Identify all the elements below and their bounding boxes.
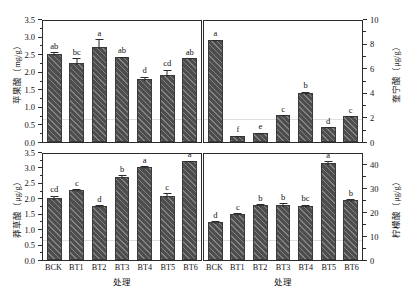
y-axis-tick (363, 93, 367, 94)
bar[interactable] (276, 205, 291, 260)
y-axis-tick-label: 20 (370, 209, 379, 218)
bar[interactable] (253, 205, 268, 260)
bar[interactable] (160, 75, 175, 142)
bar-item: a (204, 21, 227, 142)
error-bar (328, 161, 329, 165)
x-axis-tick-label: BT6 (340, 263, 363, 272)
y-axis-tick (363, 260, 367, 261)
y-axis-tick-label: 0.5 (24, 121, 35, 130)
bar[interactable] (208, 222, 223, 260)
plot-area-quinic-acid: afecbdc (203, 20, 363, 143)
significance-letter: cd (163, 59, 171, 68)
bar[interactable] (208, 40, 223, 142)
y-axis-minor-tick (363, 176, 366, 177)
bar[interactable] (137, 167, 152, 260)
significance-letter: c (349, 106, 353, 115)
bar[interactable] (230, 214, 245, 260)
significance-letter: b (281, 193, 285, 202)
bar[interactable] (276, 115, 291, 142)
error-bar (283, 115, 284, 117)
y-axis-tick (38, 152, 42, 153)
y-axis-tick-label: 2.0 (24, 68, 35, 77)
x-axis-tick-label: BCK (203, 263, 226, 272)
bar-item: ab (178, 21, 201, 142)
bar[interactable] (47, 54, 62, 142)
y-axis-tick-label: 1.5 (24, 210, 35, 219)
bar[interactable] (137, 79, 152, 142)
y-axis-minor-tick (40, 45, 43, 46)
bar[interactable] (47, 198, 62, 260)
error-bar (305, 92, 306, 95)
error-bar (99, 39, 100, 49)
y-axis-tick (38, 245, 42, 246)
significance-letter: b (349, 189, 353, 198)
y-axis-tick (38, 19, 42, 20)
y-axis-tick (363, 212, 367, 213)
bar[interactable] (160, 196, 175, 260)
y-axis-minor-tick (40, 116, 43, 117)
error-bar (144, 166, 145, 169)
significance-letter: b (258, 194, 262, 203)
x-axis-tick-label: BCK (42, 263, 65, 272)
x-axis-title-left: 处理 (42, 278, 202, 287)
bar-item: b (111, 154, 134, 260)
y-axis-tick (38, 124, 42, 125)
y-axis-tick (38, 89, 42, 90)
y-axis-minor-tick (363, 56, 366, 57)
y-axis-tick (38, 54, 42, 55)
error-bar (54, 52, 55, 56)
y-axis-minor-tick (40, 28, 43, 29)
y-axis-tick-label: 10 (370, 233, 379, 242)
significance-letter: a (188, 153, 192, 159)
y-axis-tick-label: 3.5 (24, 16, 35, 25)
bar[interactable] (298, 206, 313, 260)
error-bar (260, 204, 261, 207)
bar-item: c (227, 154, 250, 260)
bar[interactable] (69, 190, 84, 260)
bar[interactable] (115, 57, 130, 142)
y-axis-tick-label: 8 (370, 40, 374, 49)
bar[interactable] (343, 116, 358, 142)
bar[interactable] (298, 93, 313, 142)
bar[interactable] (182, 161, 197, 260)
significance-letter: d (97, 195, 101, 204)
y-axis-tick-label: 1.5 (24, 86, 35, 95)
panel-quinic-acid: afecbdc 0246810 奎宁酸（μg/g） (203, 0, 406, 148)
bar-item: b (339, 154, 362, 260)
bar[interactable] (92, 47, 107, 142)
y-axis-tick-label: 40 (370, 161, 379, 170)
bar-group: abbcaabdcdab (43, 21, 201, 142)
y-axis-tick-label: 0.5 (24, 241, 35, 250)
error-bar (54, 196, 55, 200)
error-bar (189, 161, 190, 163)
bar-item: d (317, 21, 340, 142)
bar-group: dcbbbcab (204, 154, 362, 260)
bar[interactable] (343, 200, 358, 260)
y-axis-tick (38, 37, 42, 38)
bar[interactable] (92, 206, 107, 260)
bar[interactable] (321, 127, 336, 142)
significance-letter: d (142, 66, 146, 75)
bar-item: b (249, 154, 272, 260)
y-axis-tick (363, 188, 367, 189)
significance-letter: ab (186, 48, 194, 57)
y-axis-minor-tick (40, 237, 43, 238)
bar[interactable] (69, 63, 84, 142)
bar-item: c (339, 21, 362, 142)
significance-letter: d (326, 117, 330, 126)
significance-letter: a (326, 153, 330, 159)
y-axis-minor-tick (40, 221, 43, 222)
bar-item: ab (111, 21, 134, 142)
bar-item: bc (66, 21, 89, 142)
y-axis-tick (38, 260, 42, 261)
error-bar (350, 116, 351, 118)
bar[interactable] (321, 163, 336, 260)
x-axis-tick-label: BT1 (65, 263, 88, 272)
error-bar (283, 203, 284, 207)
bar-item: a (317, 154, 340, 260)
bar[interactable] (182, 58, 197, 142)
bar[interactable] (115, 177, 130, 260)
y-axis-minor-tick (40, 252, 43, 253)
bar-item: c (156, 154, 179, 260)
y-axis-tick-label: 0 (370, 139, 374, 148)
